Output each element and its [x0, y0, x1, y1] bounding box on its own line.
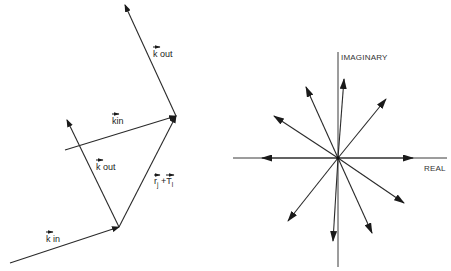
k-in-middle-label: kin	[112, 114, 124, 126]
svg-text:kin: kin	[112, 116, 124, 126]
k-in-lower-label: k in	[46, 232, 60, 244]
k-in-lower-vector	[10, 227, 119, 263]
position-sum-label: rj +Tl	[154, 175, 174, 189]
k-out-upper-label: k out	[153, 47, 173, 59]
svg-text:k out: k out	[96, 162, 116, 172]
svg-text:k out: k out	[153, 49, 173, 59]
phasor-arrow	[288, 158, 338, 221]
scattering-diagram: k out kin k out k in rj +Tl	[10, 5, 176, 263]
phasor-arrow	[338, 99, 386, 158]
imaginary-axis-label: IMAGINARY	[341, 53, 388, 62]
svg-text:rj +Tl: rj +Tl	[154, 176, 174, 189]
position-sum-vector	[119, 116, 176, 227]
k-out-upper-vector	[125, 5, 176, 116]
k-out-inner-label: k out	[96, 160, 116, 172]
phasor-diagram: IMAGINARY REAL	[233, 52, 447, 267]
phasor-arrow	[338, 79, 344, 158]
origin-point	[336, 156, 340, 160]
svg-text:k in: k in	[46, 234, 60, 244]
real-axis-label: REAL	[424, 164, 446, 173]
phasor-arrow	[333, 158, 338, 241]
figure: k out kin k out k in rj +Tl IMAGINARY RE…	[0, 0, 451, 271]
